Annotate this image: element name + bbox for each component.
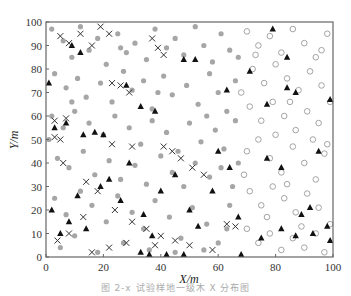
- data-point: [115, 31, 120, 36]
- data-point: [78, 24, 83, 29]
- data-point: [173, 250, 178, 255]
- data-point: [258, 235, 264, 241]
- data-point: [118, 177, 123, 182]
- data-point: [319, 83, 325, 89]
- data-point: [256, 43, 262, 49]
- data-points: [46, 24, 334, 257]
- data-point: [224, 109, 229, 114]
- data-point: [175, 149, 180, 154]
- data-point: [49, 206, 55, 212]
- data-point: [109, 99, 114, 104]
- data-point: [77, 31, 83, 37]
- data-point: [107, 158, 112, 163]
- data-point: [279, 170, 285, 176]
- data-point: [138, 103, 144, 109]
- data-point: [292, 89, 298, 95]
- data-point: [52, 134, 58, 140]
- data-point: [104, 219, 109, 224]
- data-point: [146, 251, 152, 257]
- data-point: [307, 69, 313, 75]
- data-point: [270, 25, 276, 31]
- data-point: [284, 76, 290, 82]
- data-point: [66, 40, 72, 46]
- plot-frame: [46, 22, 333, 257]
- data-point: [49, 26, 54, 31]
- x-tick-label: 0: [43, 261, 49, 273]
- data-point: [256, 240, 262, 246]
- data-point: [209, 247, 215, 253]
- data-point: [121, 69, 126, 74]
- y-axis-title: Y/m: [7, 130, 21, 149]
- data-point: [324, 31, 330, 37]
- data-point: [247, 188, 253, 194]
- data-point: [241, 172, 247, 178]
- data-point: [112, 113, 117, 118]
- data-point: [130, 210, 135, 215]
- data-point: [178, 155, 184, 161]
- data-point: [238, 90, 244, 96]
- data-point: [327, 237, 333, 243]
- data-point: [78, 189, 83, 194]
- data-point: [244, 29, 250, 35]
- data-point: [164, 130, 169, 135]
- data-point: [322, 151, 328, 157]
- data-point: [141, 78, 146, 83]
- data-point: [46, 80, 52, 86]
- data-point: [98, 24, 104, 30]
- data-point: [121, 240, 126, 245]
- data-point: [163, 251, 169, 257]
- data-point: [98, 81, 103, 86]
- x-tick-label: 100: [325, 261, 342, 273]
- x-tick-label: 60: [213, 261, 225, 273]
- data-point: [307, 204, 313, 210]
- data-point: [92, 172, 97, 177]
- data-point: [158, 188, 164, 194]
- data-point: [158, 233, 164, 239]
- data-point: [196, 102, 201, 107]
- data-point: [216, 240, 221, 245]
- data-point: [57, 230, 63, 236]
- data-point: [238, 251, 244, 257]
- data-point: [187, 120, 192, 125]
- data-point: [173, 36, 178, 41]
- data-point: [299, 224, 305, 230]
- data-point: [210, 59, 215, 64]
- data-point: [80, 131, 86, 137]
- data-point: [281, 195, 287, 201]
- y-tick-label: 50: [31, 134, 43, 146]
- data-point: [92, 129, 98, 135]
- data-point: [279, 50, 285, 56]
- data-point: [69, 55, 74, 60]
- data-point: [201, 43, 206, 48]
- data-point: [123, 82, 129, 88]
- y-tick-label: 20: [31, 204, 43, 216]
- data-point: [69, 99, 74, 104]
- data-point: [77, 49, 83, 55]
- data-point: [313, 177, 319, 183]
- data-point: [207, 71, 212, 76]
- data-point: [258, 203, 264, 209]
- data-point: [316, 205, 322, 211]
- y-tick-label: 70: [31, 87, 43, 99]
- data-point: [204, 113, 209, 118]
- data-point: [57, 137, 63, 143]
- data-point: [218, 165, 223, 170]
- data-point: [106, 31, 112, 37]
- data-point: [152, 242, 158, 248]
- data-point: [84, 95, 89, 100]
- data-point: [256, 137, 262, 143]
- data-point: [58, 245, 63, 250]
- data-point: [267, 231, 273, 237]
- data-point: [83, 179, 89, 185]
- data-point: [279, 247, 285, 253]
- data-point: [51, 124, 57, 130]
- data-point: [302, 160, 308, 166]
- data-point: [132, 163, 137, 168]
- data-point: [258, 118, 264, 124]
- data-point: [216, 90, 221, 95]
- data-point: [86, 120, 91, 125]
- data-point: [198, 139, 203, 144]
- data-point: [170, 92, 175, 97]
- data-point: [278, 225, 284, 231]
- data-point: [72, 109, 77, 114]
